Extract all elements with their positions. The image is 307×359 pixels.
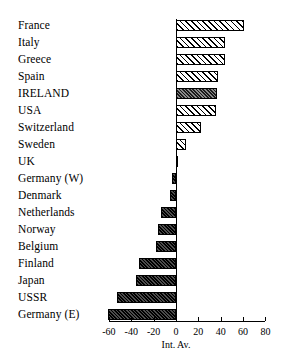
bar-sweden	[176, 139, 186, 150]
category-label-usa: USA	[18, 102, 41, 119]
bar-row: USSR	[0, 289, 307, 306]
bar-row: Denmark	[0, 187, 307, 204]
bar-germany-e	[108, 309, 176, 320]
category-label-finland: Finland	[18, 255, 54, 272]
bar-netherlands	[161, 207, 176, 218]
category-label-japan: Japan	[18, 272, 45, 289]
bar-row: Greece	[0, 51, 307, 68]
x-axis-title: Int. Av.	[116, 339, 236, 350]
bar-france	[176, 20, 244, 31]
bar-norway	[158, 224, 176, 235]
bar-row: Belgium	[0, 238, 307, 255]
bar-belgium	[156, 241, 176, 252]
x-axis-line	[109, 321, 266, 322]
category-label-netherlands: Netherlands	[18, 204, 75, 221]
x-tick	[131, 317, 132, 321]
bar-row: Norway	[0, 221, 307, 238]
bar-row: Italy	[0, 34, 307, 51]
bar-ussr	[117, 292, 176, 303]
category-label-switzerland: Switzerland	[18, 119, 74, 136]
bar-row: Sweden	[0, 136, 307, 153]
bar-row: Netherlands	[0, 204, 307, 221]
category-label-norway: Norway	[18, 221, 56, 238]
category-label-italy: Italy	[18, 34, 40, 51]
bar-usa	[176, 105, 216, 116]
x-tick	[198, 317, 199, 321]
category-label-uk: UK	[18, 153, 35, 170]
category-label-belgium: Belgium	[18, 238, 58, 255]
category-label-denmark: Denmark	[18, 187, 62, 204]
bar-row: France	[0, 17, 307, 34]
category-label-sweden: Sweden	[18, 136, 55, 153]
x-tick-label: 80	[250, 326, 280, 337]
plot-area: FranceItalyGreeceSpainIRELANDUSASwitzerl…	[0, 0, 307, 359]
x-tick	[109, 317, 110, 321]
bar-row: IRELAND	[0, 85, 307, 102]
bar-japan	[136, 275, 176, 286]
bar-finland	[139, 258, 176, 269]
x-tick	[154, 317, 155, 321]
x-tick	[176, 317, 177, 321]
category-label-germany-w: Germany (W)	[18, 170, 83, 187]
x-tick	[265, 317, 266, 321]
bar-ireland	[176, 88, 217, 99]
category-label-spain: Spain	[18, 68, 45, 85]
bar-spain	[176, 71, 218, 82]
bar-greece	[176, 54, 225, 65]
category-label-ireland: IRELAND	[18, 85, 69, 102]
category-label-greece: Greece	[18, 51, 51, 68]
bar-row: UK	[0, 153, 307, 170]
x-tick	[243, 317, 244, 321]
x-tick	[221, 317, 222, 321]
bar-row: Finland	[0, 255, 307, 272]
bar-switzerland	[176, 122, 201, 133]
zero-baseline	[176, 19, 177, 321]
bar-row: USA	[0, 102, 307, 119]
bar-row: Switzerland	[0, 119, 307, 136]
bar-chart: FranceItalyGreeceSpainIRELANDUSASwitzerl…	[0, 0, 307, 359]
category-label-germany-e: Germany (E)	[18, 306, 79, 323]
bar-italy	[176, 37, 225, 48]
bar-row: Japan	[0, 272, 307, 289]
category-label-ussr: USSR	[18, 289, 47, 306]
bar-row: Spain	[0, 68, 307, 85]
bar-row: Germany (W)	[0, 170, 307, 187]
category-label-france: France	[18, 17, 50, 34]
